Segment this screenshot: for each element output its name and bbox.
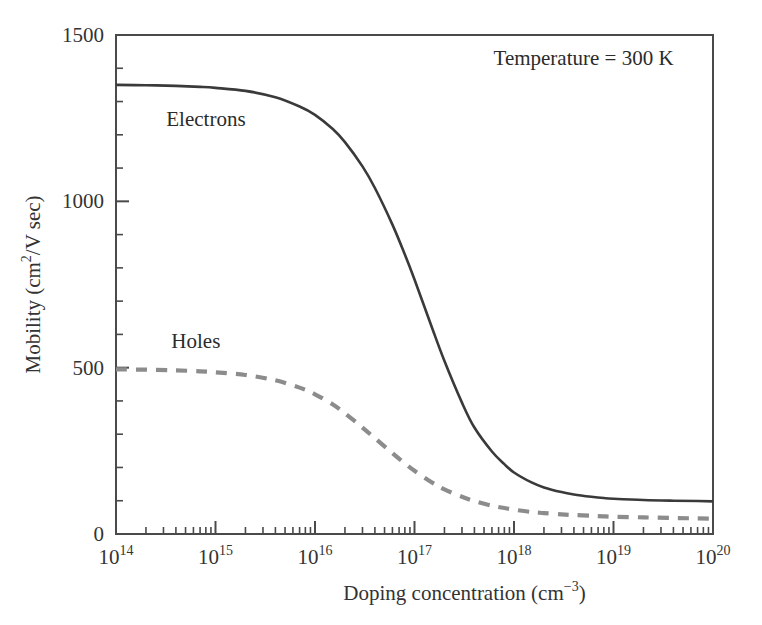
x-tick-label: 1020 xyxy=(696,543,731,569)
mobility-vs-doping-chart: 1014101510161017101810191020 05001000150… xyxy=(0,0,762,625)
x-tick-label: 1019 xyxy=(596,543,631,569)
svg-text:1014: 1014 xyxy=(99,543,134,569)
x-axis-tick-labels: 1014101510161017101810191020 xyxy=(99,543,731,569)
svg-text:1015: 1015 xyxy=(198,543,233,569)
x-tick-label: 1018 xyxy=(497,543,532,569)
x-axis-minor-ticks xyxy=(146,527,708,534)
y-tick-label: 1000 xyxy=(62,189,104,213)
svg-text:1019: 1019 xyxy=(596,543,631,569)
series-label-electrons: Electrons xyxy=(166,107,245,131)
chart-annotations: Temperature = 300 K xyxy=(494,46,674,70)
svg-text:1020: 1020 xyxy=(696,543,731,569)
x-tick-label: 1017 xyxy=(397,543,432,569)
y-tick-label: 0 xyxy=(94,522,105,546)
series-curve-holes xyxy=(116,369,713,518)
y-axis-tick-labels: 050010001500 xyxy=(62,23,104,546)
series-inline-labels: ElectronsHoles xyxy=(166,107,245,352)
y-axis-minor-ticks xyxy=(116,68,123,500)
svg-text:1017: 1017 xyxy=(397,543,432,569)
svg-text:1016: 1016 xyxy=(298,543,333,569)
y-axis-major-ticks xyxy=(116,35,129,534)
data-series-group xyxy=(116,85,713,519)
series-label-holes: Holes xyxy=(171,329,220,353)
x-axis-title: Doping concentration (cm−3) xyxy=(343,579,585,605)
series-curve-electrons xyxy=(116,85,713,502)
y-axis-title: Mobility (cm2/V sec) xyxy=(19,195,45,373)
x-tick-label: 1015 xyxy=(198,543,233,569)
svg-text:1018: 1018 xyxy=(497,543,532,569)
y-tick-label: 500 xyxy=(73,356,105,380)
x-tick-label: 1014 xyxy=(99,543,134,569)
annotation-temperature: Temperature = 300 K xyxy=(494,46,674,70)
chart-canvas: 1014101510161017101810191020 05001000150… xyxy=(0,0,762,625)
axis-titles: Doping concentration (cm−3)Mobility (cm2… xyxy=(19,195,586,605)
x-tick-label: 1016 xyxy=(298,543,333,569)
y-tick-label: 1500 xyxy=(62,23,104,47)
